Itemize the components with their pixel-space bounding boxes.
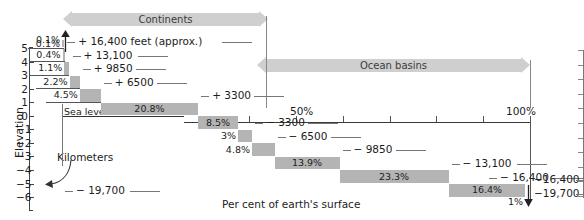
y-tick-label: 4 xyxy=(16,57,28,68)
feet-annotation-label: − 3300 xyxy=(266,117,305,128)
ocean-basins-band: Ocean basins xyxy=(257,57,530,74)
feet-annotation-leader-right xyxy=(308,123,338,124)
right-edge-tick-mark xyxy=(578,196,583,197)
bar-label-underline xyxy=(46,102,101,103)
x-tick-mark xyxy=(249,116,250,122)
right-edge-tick-mark xyxy=(578,108,583,109)
sea-level-vertical-tick xyxy=(62,104,63,166)
bar-value-label: 4.8% xyxy=(218,145,250,155)
feet-annotation-leader-left xyxy=(104,83,112,84)
feet-annotation-leader-right xyxy=(130,191,160,192)
feet-annotation-leader-right xyxy=(331,137,361,138)
feet-annotation-leader-left xyxy=(65,191,73,192)
bar-value-label: 20.8% xyxy=(101,104,198,114)
bar-segment xyxy=(238,130,252,143)
right-edge-tick-mark xyxy=(578,167,583,168)
bar-segment xyxy=(252,143,275,156)
feet-annotation-leader-right xyxy=(396,150,426,151)
top-pct-label: 0.1% xyxy=(36,35,60,45)
y-tick-mark xyxy=(29,116,34,117)
right-edge-tick-mark xyxy=(578,152,583,153)
feet-annotation-leader-right xyxy=(222,42,252,43)
right-depth-label-16400: −16,400 xyxy=(534,174,580,185)
bar-value-label: 3% xyxy=(204,131,236,141)
feet-annotation-label: + 13,100 xyxy=(84,50,133,61)
continents-band: Continents xyxy=(63,11,268,28)
right-edge-tick-mark xyxy=(578,50,583,51)
bar-value-label: 2.2% xyxy=(36,77,68,87)
right-edge-tick-mark xyxy=(578,123,583,124)
y-tick-mark xyxy=(29,89,34,90)
y-tick-label: 3 xyxy=(16,70,28,81)
continents-band-label: Continents xyxy=(63,15,268,25)
y-axis-cap-bottom xyxy=(29,210,33,211)
x-tick-mark xyxy=(483,116,484,122)
bar-value-label: 1.1% xyxy=(30,63,62,73)
feet-annotation-leader-left xyxy=(278,137,286,138)
y-tick-label: −6 xyxy=(16,192,28,203)
bar-segment xyxy=(64,62,69,75)
feet-annotation-leader-left xyxy=(83,69,91,70)
y-tick-label: 5 xyxy=(16,43,28,54)
bar-value-label: 13.9% xyxy=(275,158,340,168)
bar-value-label: 8.5% xyxy=(198,118,238,128)
feet-annotation-label: + 3300 xyxy=(212,90,251,101)
bottom-pct-arrow-icon xyxy=(523,185,534,207)
kilometers-pointer-arrow xyxy=(40,158,74,190)
right-edge-tick-mark xyxy=(578,181,583,182)
x-tick-label-50: 50% xyxy=(290,106,313,117)
feet-annotation-leader-left xyxy=(343,150,351,151)
right-depth-label-19700: −19,700 xyxy=(534,188,580,199)
right-edge-tick-mark xyxy=(578,65,583,66)
feet-annotation-leader-right xyxy=(254,96,284,97)
right-edge-tick-mark xyxy=(578,79,583,80)
ocean-basins-band-label: Ocean basins xyxy=(257,61,530,71)
feet-annotation-leader-right xyxy=(136,69,166,70)
feet-annotation-leader-right xyxy=(138,56,168,57)
feet-annotation-leader-left xyxy=(255,123,263,124)
x-tick-mark xyxy=(343,116,344,122)
feet-annotation-label: + 6500 xyxy=(115,77,154,88)
feet-annotation-leader-left xyxy=(73,56,81,57)
right-edge-tick-mark xyxy=(578,138,583,139)
y-tick-label: 2 xyxy=(16,84,28,95)
bar-segment xyxy=(70,76,80,89)
feet-annotation-leader-left xyxy=(452,164,460,165)
band-guide-line-ocean-right xyxy=(530,60,531,108)
x-axis-title: Per cent of earth's surface xyxy=(222,199,360,210)
y-tick-label: −4 xyxy=(16,165,28,176)
right-edge-tick-mark xyxy=(578,94,583,95)
top-pct-arrow-icon xyxy=(60,30,71,52)
bar-value-label: 0.4% xyxy=(29,50,61,60)
band-guide-line-continents xyxy=(266,16,267,108)
x-tick-mark xyxy=(390,116,391,122)
feet-annotation-leader-left xyxy=(489,178,497,179)
y-axis-title: Elevation xyxy=(14,107,25,158)
y-tick-label: −5 xyxy=(16,179,28,190)
feet-annotation-label: + 9850 xyxy=(94,63,133,74)
feet-annotation-label: − 6500 xyxy=(289,131,328,142)
feet-annotation-label: − 9850 xyxy=(354,144,393,155)
bottom-pct-label: 1% xyxy=(508,197,523,207)
y-tick-mark xyxy=(29,102,34,103)
feet-annotation-label: − 19,700 xyxy=(76,185,125,196)
bar-value-label: 4.5% xyxy=(46,90,78,100)
bar-segment xyxy=(80,89,101,102)
feet-annotation-leader-right xyxy=(157,83,187,84)
feet-annotation-label: + 16,400 feet (approx.) xyxy=(78,36,202,47)
x-tick-mark xyxy=(436,116,437,122)
right-edge-tick-axis xyxy=(578,50,584,198)
bar-value-label: 23.3% xyxy=(340,172,449,182)
bar-value-label: 16.4% xyxy=(449,185,526,195)
hypsographic-curve-figure: Continents Ocean basins 543210−1−2−3−4−5… xyxy=(0,0,584,220)
feet-annotation-label: − 13,100 xyxy=(463,158,512,169)
feet-annotation-leader-left xyxy=(201,96,209,97)
x-tick-label-100: 100% xyxy=(506,106,536,117)
feet-annotation-leader-right xyxy=(517,164,547,165)
